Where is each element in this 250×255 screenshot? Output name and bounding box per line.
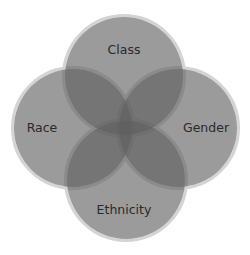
circle-ethnicity	[67, 121, 185, 239]
label-race: Race	[27, 120, 58, 135]
label-gender: Gender	[183, 120, 230, 135]
label-ethnicity: Ethnicity	[97, 202, 152, 217]
label-class: Class	[108, 42, 141, 57]
venn-diagram: ClassRaceGenderEthnicity	[0, 0, 250, 255]
